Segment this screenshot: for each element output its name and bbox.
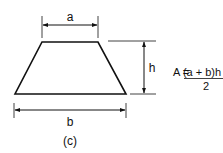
dimension-b: b <box>14 103 126 129</box>
trapezoid-area-diagram: a h b (c) A = (a + b)h 2 <box>0 0 223 153</box>
formula-denominator: 2 <box>203 80 209 92</box>
label-b: b <box>67 115 74 129</box>
dimension-a: a <box>42 10 98 38</box>
label-a: a <box>67 10 74 24</box>
formula-numerator: (a + b)h <box>183 66 221 78</box>
trapezoid-shape <box>15 42 126 94</box>
dimension-h: h <box>108 41 156 94</box>
figure-caption: (c) <box>63 134 77 148</box>
area-formula: A = (a + b)h 2 <box>173 66 223 92</box>
label-h: h <box>149 61 156 75</box>
